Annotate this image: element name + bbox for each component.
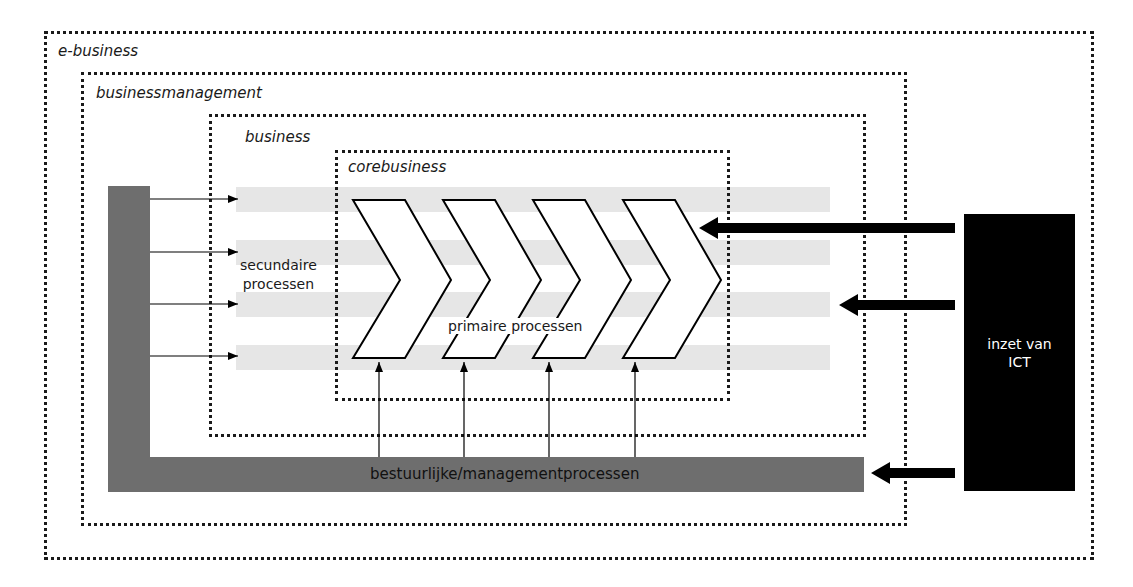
chevron-4 xyxy=(623,200,721,358)
ict-arrow-management xyxy=(871,462,955,484)
chevron-3 xyxy=(533,200,631,358)
primary-processes-label: primaire processen xyxy=(446,318,584,334)
secondary-processes-line2: processen xyxy=(240,275,317,294)
chevron-1 xyxy=(353,200,451,358)
management-arrows xyxy=(379,362,635,457)
ict-arrow-secondary xyxy=(839,294,955,316)
secondary-processes-line1: secundaire xyxy=(240,256,317,275)
diagram-shapes xyxy=(0,0,1133,587)
ict-arrows xyxy=(699,217,955,484)
primary-process-chevrons xyxy=(353,200,721,358)
chevron-2 xyxy=(443,200,541,358)
secondary-arrows xyxy=(150,199,238,356)
ict-arrow-primary xyxy=(699,217,955,239)
secondary-processes-label: secundaire processen xyxy=(240,256,317,294)
